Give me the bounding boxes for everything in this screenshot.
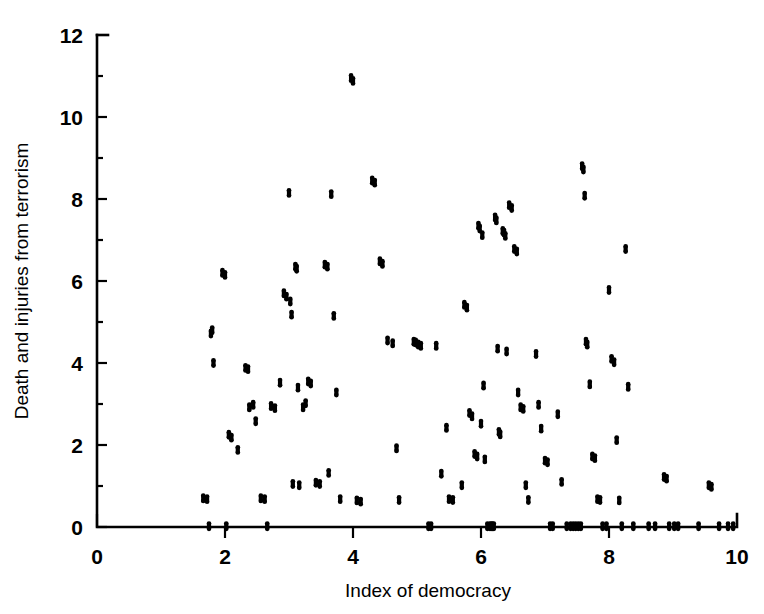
y-tick-label: 4 <box>71 352 83 375</box>
data-point <box>653 521 658 531</box>
data-point <box>559 477 564 487</box>
data-point <box>265 521 270 531</box>
data-point <box>297 480 302 490</box>
data-point <box>278 378 283 388</box>
data-point <box>614 435 619 445</box>
x-tick-label: 10 <box>725 545 748 568</box>
data-point <box>439 469 444 479</box>
y-tick-label: 6 <box>71 270 83 293</box>
data-point <box>479 419 484 429</box>
data-point <box>631 521 636 531</box>
data-point <box>509 203 514 213</box>
data-point <box>325 262 330 272</box>
tick-marks <box>97 76 609 538</box>
data-point <box>503 231 508 241</box>
data-point <box>582 191 587 201</box>
data-point <box>664 474 669 484</box>
data-point <box>205 494 210 504</box>
x-axis-title: Index of democracy <box>345 580 511 601</box>
data-point <box>604 521 609 531</box>
chart-canvas: 0246810120246810 Index of democracy Deat… <box>0 0 764 614</box>
data-point <box>521 404 526 414</box>
scatter-plot-figure: 0246810120246810 Index of democracy Deat… <box>0 0 764 614</box>
tick-labels: 0246810120246810 <box>60 24 749 568</box>
data-point <box>251 400 256 410</box>
x-tick-label: 0 <box>91 545 103 568</box>
data-point <box>607 285 612 295</box>
data-point <box>207 521 212 531</box>
data-point <box>450 495 455 505</box>
data-point <box>709 482 714 492</box>
data-point <box>600 521 605 531</box>
data-point <box>253 416 258 426</box>
data-point <box>587 379 592 389</box>
data-point <box>598 495 603 505</box>
data-point <box>434 341 439 351</box>
data-point <box>696 521 701 531</box>
data-point <box>294 264 299 274</box>
data-point <box>523 480 528 490</box>
data-point <box>317 479 322 489</box>
data-point <box>534 349 539 359</box>
data-point <box>672 521 677 531</box>
data-point <box>585 340 590 350</box>
data-point <box>288 297 293 307</box>
data-point <box>326 468 331 478</box>
data-point <box>224 521 229 531</box>
data-point <box>289 310 294 320</box>
data-point <box>229 433 234 443</box>
data-point <box>482 454 487 464</box>
data-point <box>465 303 470 313</box>
x-tick-label: 6 <box>475 545 487 568</box>
data-point <box>626 382 631 392</box>
data-point <box>495 344 500 354</box>
data-point <box>358 497 363 507</box>
data-point <box>481 381 486 391</box>
data-point <box>290 479 295 489</box>
data-point <box>223 270 228 280</box>
data-point <box>397 495 402 505</box>
data-point <box>550 521 555 531</box>
data-point <box>444 423 449 433</box>
data-point <box>536 400 541 410</box>
data-point <box>593 453 598 463</box>
data-point <box>623 244 628 254</box>
data-point <box>338 494 343 504</box>
data-point <box>418 341 423 351</box>
data-point <box>475 452 480 462</box>
axis-spines <box>97 35 737 527</box>
data-point <box>394 443 399 453</box>
data-point <box>329 189 334 199</box>
data-point <box>731 521 736 531</box>
data-point <box>459 480 464 490</box>
data-point <box>308 379 313 389</box>
data-point <box>612 357 617 367</box>
y-tick-label: 8 <box>71 188 83 211</box>
data-point <box>372 178 377 188</box>
data-point <box>351 76 356 86</box>
data-point <box>262 494 267 504</box>
x-tick-label: 4 <box>347 545 359 568</box>
data-point <box>494 215 499 225</box>
data-point <box>581 165 586 175</box>
y-tick-label: 0 <box>71 516 83 539</box>
y-tick-label: 12 <box>60 24 83 47</box>
data-point <box>619 521 624 531</box>
data-point <box>491 521 496 531</box>
data-point <box>470 411 475 421</box>
data-point <box>303 398 308 408</box>
data-point <box>514 247 519 257</box>
data-point <box>296 383 301 393</box>
data-point <box>717 521 722 531</box>
data-point <box>667 521 672 531</box>
data-point <box>578 521 583 531</box>
data-point <box>211 358 216 368</box>
data-point <box>429 521 434 531</box>
data-point <box>246 364 251 374</box>
data-point <box>331 311 336 321</box>
data-point <box>617 495 622 505</box>
data-point <box>235 445 240 455</box>
data-point <box>646 521 651 531</box>
data-point <box>390 338 395 348</box>
data-point <box>564 521 569 531</box>
